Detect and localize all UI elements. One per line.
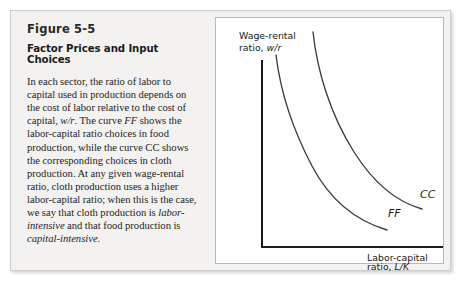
curve-label-ff: FF xyxy=(388,207,401,220)
figure-caption-text: In each sector, the ratio of labor to ca… xyxy=(27,75,200,245)
y-axis-label-line2-italic: w/r xyxy=(267,42,283,53)
x-axis-label-line2-italic: L/K xyxy=(395,261,410,272)
curve-label-cc: CC xyxy=(420,188,436,201)
chart-axes xyxy=(262,61,443,247)
curve-ff xyxy=(276,55,387,230)
y-axis-label-line1: Wage-rental xyxy=(239,30,296,41)
figure-caption-panel: Figure 5-5 Factor Prices and Input Choic… xyxy=(11,11,214,272)
factor-prices-chart: Wage-rental ratio, w/r FF CC Labor-capit… xyxy=(216,18,443,263)
x-axis-label-line2-prefix: ratio, xyxy=(367,261,395,272)
y-axis-label-line2-prefix: ratio, xyxy=(239,42,267,53)
figure-title: Factor Prices and Input Choices xyxy=(27,43,200,66)
y-axis-label-line2: ratio, w/r xyxy=(239,42,282,53)
curve-cc xyxy=(313,32,422,209)
x-axis-label-line2: ratio, L/K xyxy=(367,261,409,272)
chart-panel: Wage-rental ratio, w/r FF CC Labor-capit… xyxy=(215,17,444,264)
figure-number: Figure 5-5 xyxy=(27,23,200,36)
figure-frame: Figure 5-5 Factor Prices and Input Choic… xyxy=(10,10,451,271)
